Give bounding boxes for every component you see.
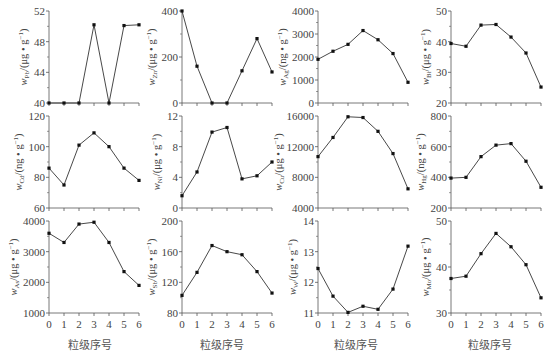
data-point-marker bbox=[449, 277, 452, 280]
x-tick-label: 1 bbox=[463, 318, 469, 330]
data-point-marker bbox=[509, 245, 512, 248]
x-tick-label: 4 bbox=[508, 318, 514, 330]
data-point-marker bbox=[479, 252, 482, 255]
x-tick-label: 0 bbox=[448, 318, 454, 330]
data-point-marker bbox=[464, 275, 467, 278]
data-point-marker bbox=[524, 263, 527, 266]
x-axis-label-col2: 粒级序号 bbox=[172, 336, 272, 352]
x-axis-label-col4: 粒级序号 bbox=[440, 336, 540, 352]
x-tick-label: 2 bbox=[478, 318, 484, 330]
x-tick-label: 3 bbox=[493, 318, 499, 330]
y-tick-label: 50 bbox=[436, 215, 448, 227]
x-tick-label: 6 bbox=[538, 318, 544, 330]
y-axis-label: wMo/(μg • g−1) bbox=[419, 237, 433, 297]
y-tick-label: 40 bbox=[436, 261, 448, 273]
data-point-marker bbox=[539, 296, 542, 299]
y-tick-label: 30 bbox=[436, 307, 448, 319]
chart-grid: 40444852wPb/(μg • g−1)0200400wZn/(μg • g… bbox=[0, 0, 548, 353]
x-axis-label-col1: 粒级序号 bbox=[40, 336, 140, 352]
x-tick-label: 5 bbox=[523, 318, 529, 330]
line-chart-mo: 3040500123456wMo/(μg • g−1) bbox=[0, 0, 548, 353]
x-axis-label-col3: 粒级序号 bbox=[306, 336, 406, 352]
data-point-marker bbox=[494, 232, 497, 235]
